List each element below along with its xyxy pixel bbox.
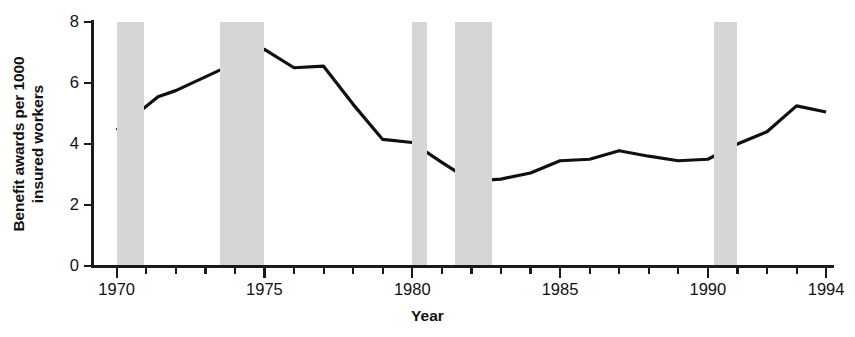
x-tick-1976 bbox=[293, 267, 295, 274]
x-tick-1991 bbox=[736, 267, 738, 274]
y-tick-0 bbox=[84, 265, 92, 267]
x-tick-label-1980: 1980 bbox=[377, 280, 447, 299]
x-tick-1992 bbox=[766, 267, 768, 274]
x-tick-1972 bbox=[175, 267, 177, 274]
x-axis-line bbox=[91, 265, 834, 268]
shaded-band-recession-1980 bbox=[412, 22, 427, 266]
x-tick-1970 bbox=[116, 267, 118, 278]
y-tick-4 bbox=[84, 143, 92, 145]
x-tick-1980 bbox=[411, 267, 413, 278]
y-tick-label-0: 0 bbox=[55, 256, 79, 275]
x-tick-1977 bbox=[323, 267, 325, 274]
x-tick-label-1994: 1994 bbox=[791, 280, 855, 299]
x-tick-1981 bbox=[441, 267, 443, 274]
x-tick-label-1990: 1990 bbox=[673, 280, 743, 299]
x-tick-1993 bbox=[796, 267, 798, 274]
x-tick-1975 bbox=[263, 267, 265, 278]
plot-inner bbox=[93, 22, 832, 266]
chart-figure: Benefit awards per 1000 insured workers … bbox=[0, 0, 855, 337]
shaded-band-recession-1981-82 bbox=[455, 22, 492, 266]
x-tick-1987 bbox=[618, 267, 620, 274]
x-tick-1978 bbox=[352, 267, 354, 274]
x-tick-1984 bbox=[529, 267, 531, 274]
y-axis-title: Benefit awards per 1000 insured workers bbox=[9, 19, 47, 269]
x-axis-title: Year bbox=[0, 307, 855, 325]
y-axis-title-wrap: Benefit awards per 1000 insured workers bbox=[0, 0, 56, 280]
x-tick-label-1970: 1970 bbox=[82, 280, 152, 299]
x-tick-label-1975: 1975 bbox=[229, 280, 299, 299]
y-tick-label-8: 8 bbox=[55, 12, 79, 31]
y-tick-label-4: 4 bbox=[55, 134, 79, 153]
x-tick-label-1985: 1985 bbox=[525, 280, 595, 299]
shaded-band-recession-1973-75 bbox=[220, 22, 264, 266]
plot-area bbox=[93, 22, 832, 266]
x-tick-1986 bbox=[589, 267, 591, 274]
x-tick-1983 bbox=[500, 267, 502, 274]
x-tick-1974 bbox=[234, 267, 236, 274]
x-tick-1989 bbox=[677, 267, 679, 274]
x-tick-1979 bbox=[382, 267, 384, 274]
x-tick-1973 bbox=[204, 267, 206, 274]
y-tick-label-2: 2 bbox=[55, 195, 79, 214]
y-tick-2 bbox=[84, 204, 92, 206]
shaded-band-recession-1970 bbox=[117, 22, 144, 266]
y-tick-label-6: 6 bbox=[55, 73, 79, 92]
x-tick-1985 bbox=[559, 267, 561, 278]
y-tick-6 bbox=[84, 82, 92, 84]
x-tick-1982 bbox=[470, 267, 472, 274]
y-tick-8 bbox=[84, 21, 92, 23]
x-tick-1988 bbox=[648, 267, 650, 274]
x-tick-1971 bbox=[145, 267, 147, 274]
shaded-band-recession-1990-91 bbox=[714, 22, 738, 266]
x-tick-1994 bbox=[825, 267, 827, 278]
x-tick-1990 bbox=[707, 267, 709, 278]
